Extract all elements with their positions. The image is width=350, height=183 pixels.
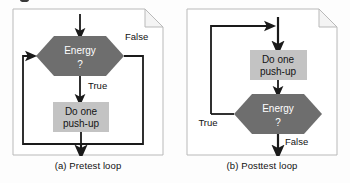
panel-posttest-loop: Do one push-up Energy ? True False — [186, 8, 338, 156]
true-branch-label: True — [198, 117, 217, 128]
process-label-line2: push-up — [260, 66, 297, 77]
panel-pretest-loop: Energy ? True Do one push-up False — [12, 8, 164, 156]
process-label-line1: Do one — [262, 54, 295, 65]
decision-hexagon-energy — [36, 36, 124, 76]
decision-label-line1: Energy — [64, 45, 96, 56]
decision-label-line2: ? — [275, 117, 281, 128]
posttest-loop-diagram: Do one push-up Energy ? True False — [186, 8, 338, 156]
page-dogear — [145, 9, 163, 27]
false-branch-label: False — [125, 31, 148, 42]
caption-posttest: (b) Posttest loop — [186, 160, 338, 171]
false-branch-label: False — [285, 136, 308, 147]
true-branch-label: True — [88, 80, 107, 91]
pretest-loop-diagram: Energy ? True Do one push-up False — [12, 8, 164, 156]
process-label-line2: push-up — [63, 118, 100, 129]
page-dogear — [319, 9, 337, 27]
decision-label-line1: Energy — [262, 103, 294, 114]
flowchart-figure: Energy ? True Do one push-up False (a) P… — [0, 0, 350, 183]
page-artifact-speck — [20, 0, 29, 2]
process-label-line1: Do one — [65, 106, 98, 117]
decision-hexagon-energy — [234, 94, 322, 134]
decision-label-line2: ? — [77, 59, 83, 70]
caption-pretest: (a) Pretest loop — [12, 160, 164, 171]
